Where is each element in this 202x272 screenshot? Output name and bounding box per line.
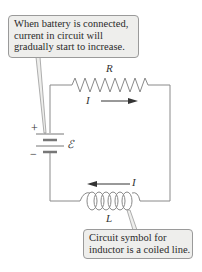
resistor-label: R: [106, 62, 113, 74]
callout-line: gradually start to increase.: [14, 41, 133, 53]
current-label-top: I: [86, 94, 90, 106]
minus-sign: −: [30, 147, 37, 162]
callout-line: When battery is connected,: [14, 18, 133, 30]
callout-line: inductor is a coiled line.: [89, 244, 187, 256]
battery-symbol: [36, 134, 64, 152]
emf-label: ℰ: [67, 138, 74, 151]
callout-inductor-symbol: Circuit symbol for inductor is a coiled …: [83, 229, 193, 259]
current-arrow-top: [101, 98, 138, 104]
current-arrow-bottom: [87, 181, 130, 187]
plus-sign: +: [31, 121, 38, 136]
current-label-bottom: I: [132, 176, 136, 188]
inductor-symbol: [80, 192, 140, 210]
callout-battery-connected: When battery is connected, current in ci…: [8, 15, 139, 58]
callout-line: Circuit symbol for: [89, 232, 187, 244]
inductor-label: L: [106, 212, 112, 224]
bottom-callout-pointer: [127, 210, 137, 230]
callout-line: current in circuit will: [14, 30, 133, 42]
